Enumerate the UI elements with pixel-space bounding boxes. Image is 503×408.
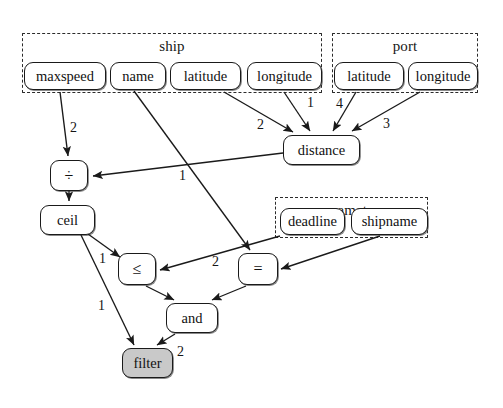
edge-p-shipname-equals (281, 236, 380, 269)
node-divide-operator[interactable]: ÷ (50, 160, 88, 191)
node-ship-latitude[interactable]: latitude (170, 62, 241, 90)
edge-p-name-equals (134, 91, 250, 250)
edge-label-e-and-filter: 2 (177, 344, 184, 360)
node-distance[interactable]: distance (283, 135, 360, 165)
node-label: filter (133, 355, 161, 372)
node-label: latitude (184, 68, 228, 85)
node-label: ceil (57, 212, 78, 229)
node-label: = (253, 260, 262, 278)
group-ship-label: ship (23, 38, 321, 55)
edge-label-e-maxspeed-divide: 2 (70, 120, 77, 136)
edge-p-ceil-filter (81, 235, 134, 345)
edge-label-e-ceil-leq: 1 (99, 251, 106, 267)
node-label: name (122, 68, 153, 85)
node-ship-name[interactable]: name (110, 62, 166, 90)
edge-label-e-ceil-filter: 1 (98, 298, 105, 314)
node-deadline[interactable]: deadline (280, 208, 345, 235)
node-label: maxspeed (36, 68, 94, 85)
edge-label-e-portlon-distance: 3 (383, 116, 390, 132)
node-filter[interactable]: filter (122, 348, 173, 378)
edge-p-leq-and (146, 286, 174, 300)
node-ship-maxspeed[interactable]: maxspeed (24, 62, 106, 90)
node-port-latitude[interactable]: latitude (334, 62, 404, 90)
group-port-label: port (333, 38, 477, 55)
node-label: and (182, 310, 203, 327)
node-label: distance (298, 142, 346, 159)
node-label: shipname (362, 213, 418, 230)
node-label: longitude (416, 68, 471, 85)
edge-p-equals-and (212, 286, 246, 300)
node-shipname[interactable]: shipname (351, 208, 428, 235)
edge-label-e-distance-divide: 1 (179, 168, 186, 184)
node-label: ≤ (133, 260, 142, 278)
node-port-longitude[interactable]: longitude (408, 62, 478, 90)
edge-label-e-shiplat-distance: 2 (257, 117, 264, 133)
diagram-canvas: ship port parameters maxspeed name latit… (0, 0, 503, 408)
node-equals-operator[interactable]: = (238, 253, 278, 285)
edge-label-e-deadline-leq: 2 (212, 254, 219, 270)
node-label: deadline (288, 213, 337, 230)
node-label: longitude (257, 68, 312, 85)
node-label: ÷ (65, 167, 74, 185)
node-ship-longitude[interactable]: longitude (247, 62, 322, 90)
edge-p-and-filter (157, 334, 175, 345)
edge-label-e-shiplon-distance: 1 (307, 95, 314, 111)
edge-p-distance-divide (93, 153, 283, 176)
node-label: latitude (347, 68, 391, 85)
node-less-equal-operator[interactable]: ≤ (118, 253, 156, 285)
node-and[interactable]: and (166, 303, 218, 333)
edge-label-e-portlat-distance: 4 (336, 96, 343, 112)
node-ceil[interactable]: ceil (40, 205, 95, 235)
edge-p-maxspeed-divide (60, 92, 68, 156)
